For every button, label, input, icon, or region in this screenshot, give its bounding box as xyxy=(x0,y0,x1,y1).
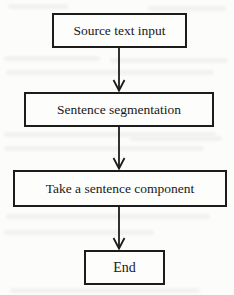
node-label: End xyxy=(113,261,136,275)
node-source-text-input: Source text input xyxy=(52,13,187,48)
node-sentence-segmentation: Sentence segmentation xyxy=(24,92,214,127)
edge-source-to-segment xyxy=(114,48,125,91)
node-end: End xyxy=(84,250,165,285)
node-label: Sentence segmentation xyxy=(57,103,181,117)
edge-segment-to-component xyxy=(114,127,125,169)
node-label: Source text input xyxy=(73,24,165,38)
node-take-a-sentence-component: Take a sentence component xyxy=(13,170,227,207)
edge-component-to-end xyxy=(114,207,125,249)
flowchart-canvas: Source text input Sentence segmentation … xyxy=(0,0,234,295)
node-label: Take a sentence component xyxy=(46,182,195,196)
